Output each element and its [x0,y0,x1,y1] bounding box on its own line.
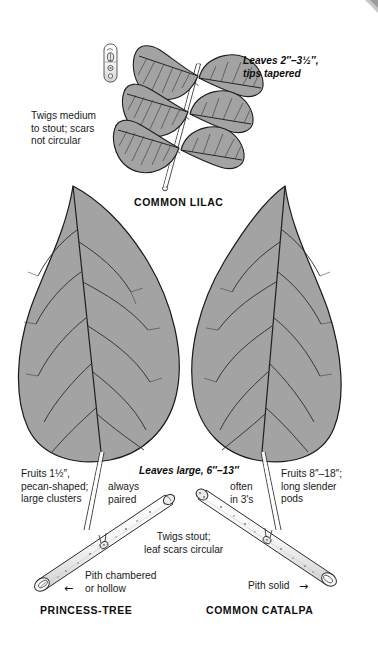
catalpa-leaf [192,186,341,462]
annotation-fruits-right: Fruits 8″–18″; long slender pods [281,468,342,506]
arrow-left-icon: ← [64,583,73,594]
annotation-often-in-threes: often in 3's [230,481,253,506]
lilac-leaf [181,127,244,169]
annotation-leaves-large: Leaves large, 6″–13″ [139,465,239,478]
corner-smudge [365,0,378,13]
caption-common-catalpa: COMMON CATALPA [206,604,313,616]
caption-princess-tree: PRINCESS-TREE [40,604,132,616]
annotation-fruits-left: Fruits 1½″, pecan-shaped; large clusters [21,468,88,506]
annotation-pith-solid: Pith solid [248,580,289,593]
arrow-right-icon: → [299,581,308,592]
illustration-plate: Leaves 2″–3½″, tips tapered Twigs medium… [0,0,378,655]
annotation-lilac-twigs: Twigs medium to stout; scars not circula… [31,110,96,148]
annotation-lilac-leaves: Leaves 2″–3½″, tips tapered [243,55,318,80]
princess-tree-leaf [18,186,179,462]
lilac-leaf-spray [113,46,263,191]
plate-artwork [0,0,378,655]
catalpa-petiole [261,452,281,530]
annotation-always-paired: always paired [108,481,139,506]
lilac-twig-inset [104,44,117,82]
annotation-twigs-stout: Twigs stout; leaf scars circular [144,531,223,556]
lilac-leaf [190,91,253,133]
annotation-pith-chambered: Pith chambered or hollow [85,570,156,595]
caption-common-lilac: COMMON LILAC [134,196,223,208]
